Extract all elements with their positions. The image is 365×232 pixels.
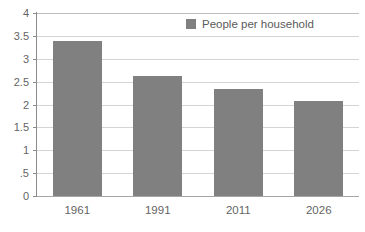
y-axis-tick-labels: 43.532.521.51.50	[0, 13, 33, 196]
y-axis-tick-mark	[33, 82, 37, 83]
y-axis-tick-mark	[33, 173, 37, 174]
chart-legend: People per household	[186, 18, 314, 30]
y-axis-tick-mark	[33, 150, 37, 151]
bar-slot	[118, 13, 199, 196]
plot-area	[37, 13, 359, 196]
x-axis-tick-label: 2011	[226, 204, 251, 216]
bar-1961	[53, 41, 102, 196]
x-axis-label-slot: 1961	[37, 200, 118, 218]
y-axis-tick-label: 3	[23, 53, 29, 64]
y-axis-tick-label: 2.5	[14, 76, 29, 87]
y-axis-tick-label: 4	[23, 8, 29, 19]
y-axis-tick-label: .5	[20, 168, 29, 179]
y-axis-tick-mark	[33, 127, 37, 128]
y-axis-tick-mark	[33, 13, 37, 14]
legend-swatch-icon	[186, 19, 196, 29]
y-axis-tick-mark	[33, 105, 37, 106]
y-axis-tick-label: 1	[23, 145, 29, 156]
bar-slot	[37, 13, 118, 196]
y-axis-tick-mark	[33, 59, 37, 60]
gridline	[37, 196, 359, 197]
x-axis-category-labels: 1961199120112026	[37, 200, 359, 218]
x-axis-label-slot: 2026	[279, 200, 360, 218]
y-axis-tick-label: 0	[23, 191, 29, 202]
bar-1991	[133, 76, 182, 196]
bar-2026	[294, 101, 343, 196]
bar-series-people-per-household	[37, 13, 359, 196]
x-axis-tick-label: 2026	[306, 204, 332, 216]
y-axis-tick-label: 2	[23, 99, 29, 110]
y-axis-tick-label: 1.5	[14, 122, 29, 133]
x-axis-tick-label: 1961	[64, 204, 90, 216]
y-axis-tick-mark	[33, 36, 37, 37]
bar-2011	[214, 89, 263, 197]
x-axis-tick-label: 1991	[145, 204, 171, 216]
y-axis-tick-label: 3.5	[14, 30, 29, 41]
legend-label: People per household	[202, 18, 314, 30]
bar-slot	[279, 13, 360, 196]
y-axis-tick-mark	[33, 196, 37, 197]
x-axis-label-slot: 2011	[198, 200, 279, 218]
bar-slot	[198, 13, 279, 196]
bar-chart: 43.532.521.51.50 1961199120112026 People…	[0, 0, 365, 232]
x-axis-label-slot: 1991	[118, 200, 199, 218]
